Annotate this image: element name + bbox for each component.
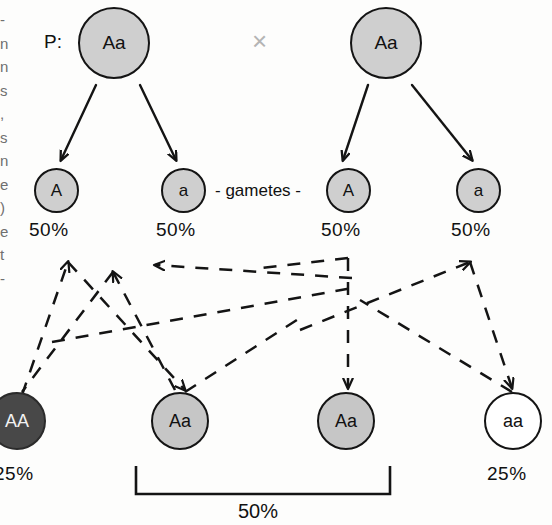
offspring-genotype-label: aa bbox=[503, 411, 523, 432]
fert-leg-A1-to-Aa-left bbox=[68, 262, 185, 390]
arrow-parent1-to-gamete-a bbox=[140, 85, 176, 160]
fert-apex-gamete-a2 bbox=[113, 272, 175, 390]
gametes-caption: - gametes - bbox=[215, 181, 301, 201]
offspring-circle-aa[interactable]: aa bbox=[484, 392, 542, 450]
margin-text-line: s bbox=[0, 126, 16, 150]
fert-apex-gamete-A1 bbox=[22, 262, 68, 395]
meiosis-arrows-right-parent bbox=[343, 85, 472, 160]
margin-text-line: e bbox=[0, 220, 16, 244]
margin-text-line: , bbox=[0, 102, 16, 126]
offspring-circle-Aa-right[interactable]: Aa bbox=[317, 392, 375, 450]
gamete-allele-label: A bbox=[343, 181, 354, 201]
margin-text-line: n bbox=[0, 149, 16, 173]
fertilization-lines bbox=[22, 258, 512, 395]
fert-apex-gamete-a4 bbox=[300, 262, 470, 330]
gamete-allele-label: A bbox=[51, 181, 62, 201]
fert-cross-up-left bbox=[155, 265, 352, 278]
gamete-circle-1[interactable]: A bbox=[34, 168, 79, 213]
fert-cross-lower-right bbox=[360, 300, 512, 392]
margin-text-line: t bbox=[0, 243, 16, 267]
offspring-genotype-label: AA bbox=[5, 411, 29, 432]
gamete-percent-4: 50% bbox=[451, 219, 491, 241]
gamete-allele-label: a bbox=[179, 181, 188, 201]
arrow-parent2-to-gamete-A bbox=[343, 85, 368, 160]
offspring-percent-aa: 25% bbox=[487, 463, 527, 485]
margin-text-line: n bbox=[0, 32, 16, 56]
cross-symbol: × bbox=[252, 26, 267, 57]
heterozygote-bracket bbox=[136, 466, 390, 494]
offspring-genotype-label: Aa bbox=[169, 411, 191, 432]
gamete-circle-2[interactable]: a bbox=[161, 168, 206, 213]
offspring-genotype-label: Aa bbox=[335, 411, 357, 432]
margin-text-line: s bbox=[0, 79, 16, 103]
fert-leg-a4-to-aa bbox=[470, 262, 512, 388]
gamete-circle-4[interactable]: a bbox=[456, 168, 501, 213]
arrow-parent2-to-gamete-a bbox=[412, 85, 472, 160]
parent-genotype-label: Aa bbox=[374, 32, 397, 54]
margin-text-line: e bbox=[0, 173, 16, 197]
margin-text-column: - n n s , s n e ) e t - bbox=[0, 8, 16, 290]
parent-genotype-label: Aa bbox=[102, 32, 125, 54]
gamete-circle-3[interactable]: A bbox=[326, 168, 371, 213]
gamete-percent-3: 50% bbox=[321, 219, 361, 241]
margin-text-line: n bbox=[0, 55, 16, 79]
fert-apex-gamete-A3 bbox=[262, 258, 348, 268]
monohybrid-cross-figure: - n n s , s n e ) e t - bbox=[0, 0, 552, 525]
margin-text-line: - bbox=[0, 267, 16, 291]
fert-cross-lower-mid bbox=[185, 318, 300, 392]
arrow-parent1-to-gamete-A bbox=[61, 85, 96, 160]
fert-leg-a2-to-AA bbox=[22, 272, 113, 392]
margin-text-line: - bbox=[0, 8, 16, 32]
parent-circle-2[interactable]: Aa bbox=[350, 7, 422, 79]
heterozygote-total-percent: 50% bbox=[238, 500, 278, 523]
gamete-allele-label: a bbox=[474, 181, 483, 201]
offspring-percent-AA: 25% bbox=[0, 463, 34, 485]
fert-cross-lower-left bbox=[52, 288, 352, 342]
offspring-circle-AA[interactable]: AA bbox=[0, 392, 46, 450]
margin-text-line: ) bbox=[0, 196, 16, 220]
meiosis-arrows-left-parent bbox=[61, 85, 176, 160]
offspring-circle-Aa-left[interactable]: Aa bbox=[151, 392, 209, 450]
connector-layer bbox=[0, 0, 552, 525]
parent-circle-1[interactable]: Aa bbox=[78, 7, 150, 79]
gamete-percent-1: 50% bbox=[29, 219, 69, 241]
parent-generation-label: P: bbox=[44, 31, 62, 53]
gamete-percent-2: 50% bbox=[156, 219, 196, 241]
